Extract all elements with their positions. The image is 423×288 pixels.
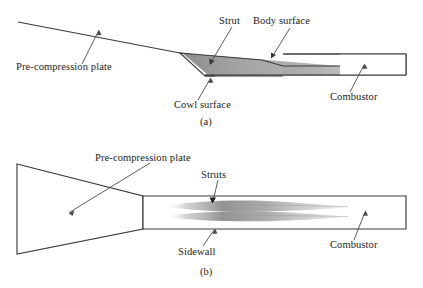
pre-compression-plate-line-a <box>18 22 180 53</box>
label-combustor-b: Combustor <box>330 239 378 250</box>
arrowhead-body-surface-a <box>271 53 276 59</box>
pre-compression-plate-shape-b <box>17 164 143 254</box>
label-combustor-a: Combustor <box>330 91 378 102</box>
leader-sidewall-b <box>203 230 214 246</box>
caption-panel-b: (b) <box>200 266 212 277</box>
label-cowl-surface-a: Cowl surface <box>174 99 231 110</box>
leader-cowl-surface-a <box>198 79 210 100</box>
scramjet-inlet-figure: Pre-compression plate Strut Body surface… <box>0 0 423 288</box>
label-body-surface-a: Body surface <box>253 15 310 26</box>
label-pre-compression-plate-b: Pre-compression plate <box>95 152 191 163</box>
label-strut-a: Strut <box>219 15 240 26</box>
leader-body-surface-a <box>272 28 290 57</box>
label-pre-compression-plate-a: Pre-compression plate <box>16 61 112 72</box>
caption-panel-a: (a) <box>200 116 212 127</box>
duct-shade-a <box>283 67 340 74</box>
label-sidewall-b: Sidewall <box>178 246 216 257</box>
label-struts-b: Struts <box>201 169 226 180</box>
